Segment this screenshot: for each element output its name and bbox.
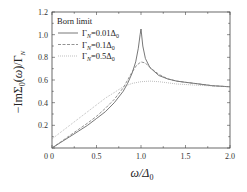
y-tick-label: 0.8 (38, 53, 48, 62)
y-tick-label: 1.2 (38, 8, 48, 17)
series-line (52, 62, 230, 148)
x-tick-label: 2.0 (225, 152, 235, 161)
series-line (52, 81, 230, 139)
chart: 00.51.01.52.00.20.40.60.81.01.20 Born li… (0, 0, 247, 192)
legend-label: ΓN=0.01Δ0 (82, 28, 119, 39)
series-line (52, 29, 230, 148)
y-tick-label: 0.2 (38, 121, 48, 130)
legend-title: Born limit (57, 16, 93, 26)
series-lines (52, 29, 230, 148)
x-tick-label: 1.5 (181, 152, 191, 161)
y-tick-label: 1.0 (38, 31, 48, 40)
origin-tick-label: 0 (44, 152, 48, 161)
x-tick-label: 0.5 (92, 152, 102, 161)
legend-label: ΓN=0.1Δ0 (82, 40, 115, 51)
y-tick-label: 0.4 (38, 99, 48, 108)
legend: Born limit ΓN=0.01Δ0ΓN=0.1Δ0ΓN=0.5Δ0 (57, 16, 119, 62)
legend-label: ΓN=0.5Δ0 (82, 51, 115, 62)
x-tick-label: 1.0 (136, 152, 146, 161)
x-axis-title: ω/Δ0 (131, 166, 154, 182)
y-tick-label: 0.6 (38, 76, 48, 85)
x-tick-label: 0 (50, 152, 54, 161)
y-axis-title: −ImΣ0(ω)/ΓN (11, 50, 27, 113)
